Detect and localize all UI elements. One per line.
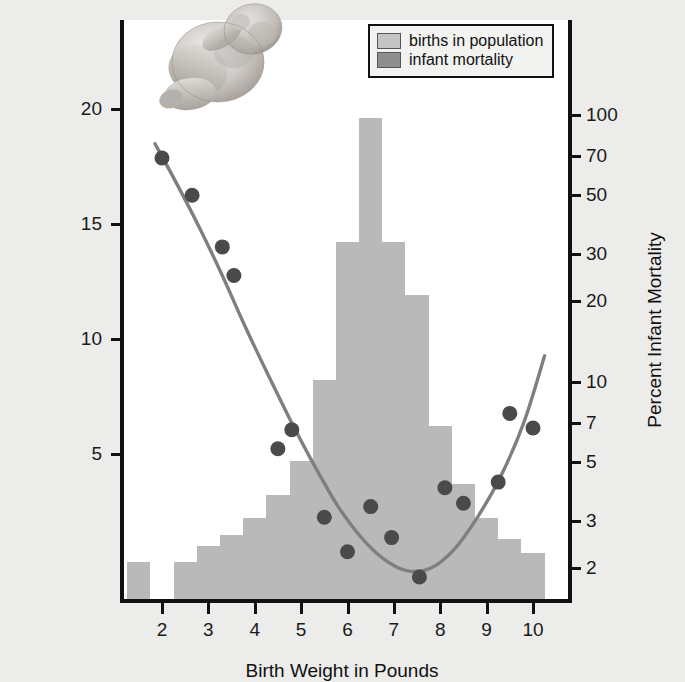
y-axis-right-tick-label: 70	[586, 146, 630, 165]
x-axis-tick-label: 6	[328, 620, 368, 639]
x-axis-tick-mark	[393, 603, 396, 614]
y-axis-right-tick-mark	[572, 520, 581, 523]
x-axis-tick-label: 3	[188, 620, 228, 639]
mortality-data-point	[384, 530, 399, 545]
y-axis-right-tick-mark	[572, 381, 581, 384]
y-axis-left-tick-mark	[111, 108, 120, 111]
mortality-data-point	[270, 441, 285, 456]
mortality-data-point	[284, 422, 299, 437]
newborn-infant-illustration	[146, 0, 306, 125]
x-axis-tick-mark	[439, 603, 442, 614]
mortality-data-point	[215, 239, 230, 254]
x-axis-tick-label: 2	[142, 620, 182, 639]
mortality-data-point	[226, 268, 241, 283]
x-axis-tick-mark	[347, 603, 350, 614]
mortality-data-point	[317, 510, 332, 525]
y-axis-right-tick-label: 50	[586, 185, 630, 204]
mortality-data-point	[491, 475, 506, 490]
x-axis-title: Birth Weight in Pounds	[246, 660, 439, 682]
mortality-data-point	[456, 496, 471, 511]
legend-item-mortality: infant mortality	[377, 51, 543, 69]
y-axis-right-tick-label: 5	[586, 452, 630, 471]
x-axis-tick-label: 7	[374, 620, 414, 639]
mortality-data-point	[526, 421, 541, 436]
y-axis-right-tick-mark	[572, 194, 581, 197]
figure-canvas: Percent of Births in Population Percent …	[0, 0, 685, 682]
mortality-data-point	[340, 544, 355, 559]
y-axis-right-tick-label: 10	[586, 372, 630, 391]
x-axis-tick-mark	[300, 603, 303, 614]
y-axis-right-title: Percent Infant Mortality	[644, 232, 666, 427]
legend-label-mortality: infant mortality	[409, 51, 513, 69]
y-axis-right-tick-label: 30	[586, 244, 630, 263]
x-axis-tick-label: 5	[281, 620, 321, 639]
y-axis-right-tick-label: 7	[586, 413, 630, 432]
mortality-data-point	[412, 570, 427, 585]
y-axis-left-tick-label: 10	[62, 329, 102, 348]
legend-item-births: births in population	[377, 32, 543, 50]
y-axis-right-tick-mark	[572, 253, 581, 256]
y-axis-left-tick-label: 5	[62, 444, 102, 463]
y-axis-right-tick-label: 2	[586, 558, 630, 577]
y-axis-right-tick-mark	[572, 461, 581, 464]
x-axis-tick-label: 8	[420, 620, 460, 639]
x-axis-tick-mark	[207, 603, 210, 614]
y-axis-left-tick-mark	[111, 338, 120, 341]
y-axis-right-tick-mark	[572, 155, 581, 158]
legend-swatch-mortality	[377, 52, 401, 68]
x-axis-tick-mark	[486, 603, 489, 614]
y-axis-right-tick-mark	[572, 422, 581, 425]
y-axis-left-tick-mark	[111, 453, 120, 456]
x-axis-tick-label: 10	[513, 620, 553, 639]
x-axis-tick-mark	[532, 603, 535, 614]
mortality-data-point	[185, 188, 200, 203]
y-axis-left-tick-label: 20	[62, 99, 102, 118]
legend-label-births: births in population	[409, 32, 543, 50]
y-axis-right-tick-mark	[572, 300, 581, 303]
y-axis-right-tick-mark	[572, 567, 581, 570]
y-axis-right-tick-label: 100	[586, 105, 630, 124]
chart-legend: births in population infant mortality	[368, 24, 554, 78]
x-axis-tick-mark	[161, 603, 164, 614]
y-axis-left-tick-mark	[111, 223, 120, 226]
legend-swatch-births	[377, 33, 401, 49]
mortality-data-point	[363, 499, 378, 514]
mortality-data-point	[502, 406, 517, 421]
x-axis-tick-label: 9	[467, 620, 507, 639]
x-axis-tick-mark	[254, 603, 257, 614]
mortality-trend-line	[155, 144, 545, 572]
y-axis-left-tick-label: 15	[62, 214, 102, 233]
y-axis-right-tick-mark	[572, 114, 581, 117]
y-axis-right-tick-label: 20	[586, 291, 630, 310]
x-axis-tick-label: 4	[235, 620, 275, 639]
y-axis-right-tick-label: 3	[586, 511, 630, 530]
mortality-data-point	[437, 480, 452, 495]
mortality-data-point	[155, 151, 170, 166]
